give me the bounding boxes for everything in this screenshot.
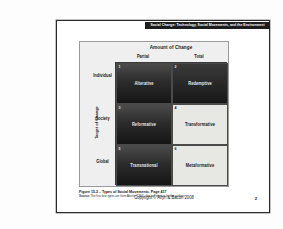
slide-header-bar: Social Change: Technology, Social Moveme… <box>145 22 270 29</box>
matrix-cell-label: Redemptive <box>188 81 212 87</box>
matrix-cell: 1 Alterative <box>116 63 172 104</box>
figure-matrix-diagram: Amount of Change Partial Total Target of… <box>79 41 229 187</box>
matrix-cell-label: Reformative <box>132 122 156 128</box>
matrix-cell: 5 Transnational <box>116 145 172 186</box>
matrix-row-header-society: Society <box>90 116 115 122</box>
matrix-column-axis-title: Amount of Change <box>115 45 227 51</box>
matrix-cell: 6 Metaformative <box>172 145 228 186</box>
matrix-cell-label: Transformative <box>185 122 215 128</box>
matrix-cell-number: 3 <box>119 106 121 110</box>
matrix-row-header-individual: Individual <box>90 73 115 79</box>
matrix-cell-number: 6 <box>175 147 177 151</box>
matrix-column-header-partial: Partial <box>115 54 171 60</box>
matrix-cell-number: 1 <box>119 65 121 69</box>
matrix-cell-label: Alterative <box>134 81 153 87</box>
slide-header-title: Social Change: Technology, Social Moveme… <box>150 23 264 27</box>
matrix-cell-label: Transnational <box>130 163 157 169</box>
slide-footer-copyright: Copyright © Allyn & Bacon 2008 <box>57 195 271 201</box>
matrix-cell: 3 Reformative <box>116 104 172 145</box>
matrix-cell-label: Metaformative <box>186 163 214 169</box>
matrix-row-header-global: Global <box>90 159 115 165</box>
matrix-cell-number: 5 <box>119 147 121 151</box>
matrix-column-header-total: Total <box>171 54 227 60</box>
matrix-row-axis-title: Target of Change <box>94 95 99 151</box>
matrix-cell: 4 Transformative <box>172 104 228 145</box>
presentation-slide: Social Change: Technology, Social Moveme… <box>56 20 270 213</box>
slide-page-number: 2 <box>255 196 257 201</box>
page-canvas: Social Change: Technology, Social Moveme… <box>0 0 283 229</box>
matrix-grid: 1 Alterative 2 Redemptive 3 Reformative … <box>115 62 227 185</box>
matrix-cell-number: 4 <box>175 106 177 110</box>
matrix-cell-number: 2 <box>175 65 177 69</box>
matrix-cell: 2 Redemptive <box>172 63 228 104</box>
